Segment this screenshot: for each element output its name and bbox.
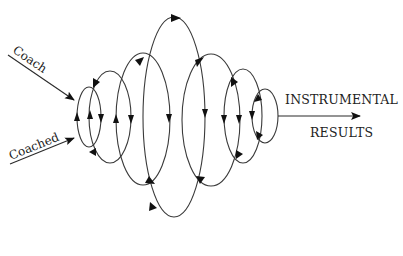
loop-6	[224, 69, 262, 163]
loops	[77, 17, 278, 217]
loop-4	[143, 17, 205, 217]
arrowhead-icon	[249, 111, 255, 120]
arrowhead-icon	[93, 78, 100, 88]
arrowhead-icon	[221, 115, 227, 124]
output: INSTRUMENTAL RESULTS	[278, 92, 398, 140]
output-label-line1: INSTRUMENTAL	[285, 92, 398, 107]
arrowhead-icon	[195, 57, 204, 67]
arrowhead-icon	[113, 114, 119, 123]
output-label-line2: RESULTS	[310, 125, 373, 140]
arrowhead-icon	[166, 114, 172, 123]
coaching-loops-diagram: Coach Coached	[0, 0, 403, 256]
arrowhead-icon	[98, 114, 104, 123]
arrowhead-icon	[231, 77, 238, 87]
coach-input: Coach	[8, 43, 74, 100]
arrowhead-icon	[149, 202, 157, 211]
arrowhead-icon	[171, 14, 181, 22]
arrowhead-icon	[135, 57, 144, 66]
loop-5	[182, 54, 240, 186]
arrowhead-icon	[128, 115, 134, 124]
arrowhead-icon	[236, 115, 242, 124]
arrowhead-icon	[89, 148, 96, 156]
arrowhead-icon	[87, 110, 93, 119]
coach-label: Coach	[10, 43, 50, 76]
arrowhead-icon	[74, 112, 80, 121]
coached-input: Coached	[7, 130, 74, 164]
direction-arrowheads	[74, 14, 263, 211]
arrowhead-icon	[202, 109, 208, 118]
arrowhead-icon	[236, 150, 243, 159]
loop-7	[252, 89, 278, 143]
